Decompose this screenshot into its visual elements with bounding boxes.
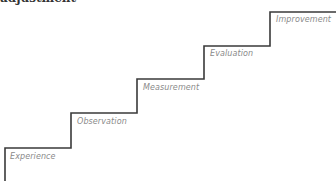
step-label-experience: Experience bbox=[10, 152, 56, 161]
step-label-evaluation: Evaluation bbox=[210, 49, 253, 58]
step-label-measurement: Measurement bbox=[143, 83, 199, 92]
step-label-observation: Observation bbox=[77, 117, 127, 126]
step-label-improvement: Improvement bbox=[276, 15, 331, 24]
